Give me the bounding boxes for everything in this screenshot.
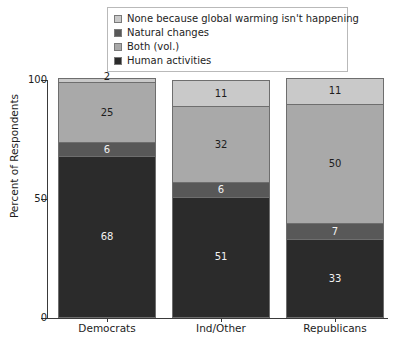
x-axis-category-label: Democrats bbox=[47, 322, 167, 334]
bar-segment-value-label: 33 bbox=[329, 274, 342, 284]
legend-swatch-icon bbox=[114, 43, 122, 51]
stacked-bar[interactable]: 686252 bbox=[58, 80, 156, 318]
legend-item[interactable]: Natural changes bbox=[114, 26, 341, 39]
legend-swatch-icon bbox=[114, 57, 122, 65]
bar-segment-value-label: 50 bbox=[329, 159, 342, 169]
x-axis-category-label: Ind/Other bbox=[161, 322, 281, 334]
stacked-bar[interactable]: 5163211 bbox=[172, 80, 270, 318]
legend-item-label: Human activities bbox=[127, 55, 211, 66]
legend-item[interactable]: Both (vol.) bbox=[114, 40, 341, 53]
bar-segment[interactable]: 50 bbox=[286, 104, 384, 223]
bar-segment-value-label: 51 bbox=[215, 252, 228, 262]
stacked-bar[interactable]: 3375011 bbox=[286, 80, 384, 318]
y-axis-title: Percent of Respondents bbox=[8, 56, 20, 256]
bar-segment-value-label: 11 bbox=[329, 86, 342, 96]
bar-segment[interactable]: 11 bbox=[286, 78, 384, 104]
bar-segment-value-label: 2 bbox=[104, 72, 110, 82]
bar-segment-value-label: 7 bbox=[332, 227, 338, 237]
legend-swatch-icon bbox=[114, 29, 122, 37]
legend-item-label: Natural changes bbox=[127, 27, 209, 38]
legend-item-label: Both (vol.) bbox=[127, 41, 179, 52]
bar-segment-value-label: 6 bbox=[104, 145, 110, 155]
bar-segment[interactable]: 2 bbox=[58, 78, 156, 83]
bar-segment-value-label: 11 bbox=[215, 89, 228, 99]
bar-segment-value-label: 68 bbox=[101, 232, 114, 242]
legend-swatch-icon bbox=[114, 15, 122, 23]
x-axis-line bbox=[47, 318, 388, 319]
legend-item-label: None because global warming isn't happen… bbox=[127, 13, 359, 24]
bar-segment-value-label: 6 bbox=[218, 185, 224, 195]
legend-item[interactable]: None because global warming isn't happen… bbox=[114, 12, 341, 25]
bar-segment[interactable]: 33 bbox=[286, 239, 384, 318]
bar-segment[interactable]: 51 bbox=[172, 197, 270, 318]
bar-segment-value-label: 32 bbox=[215, 140, 228, 150]
bar-segment-value-label: 25 bbox=[101, 108, 114, 118]
bar-segment[interactable]: 68 bbox=[58, 156, 156, 318]
bar-segment[interactable]: 6 bbox=[172, 182, 270, 196]
legend-item[interactable]: Human activities bbox=[114, 54, 341, 67]
chart-legend: None because global warming isn't happen… bbox=[107, 7, 348, 72]
bar-segment[interactable]: 6 bbox=[58, 142, 156, 156]
bar-segment[interactable]: 11 bbox=[172, 80, 270, 106]
bar-segment[interactable]: 7 bbox=[286, 223, 384, 240]
plot-area: 68625251632113375011 bbox=[47, 80, 388, 318]
x-axis-category-label: Republicans bbox=[275, 322, 395, 334]
bar-segment[interactable]: 25 bbox=[58, 82, 156, 142]
bar-segment[interactable]: 32 bbox=[172, 106, 270, 182]
